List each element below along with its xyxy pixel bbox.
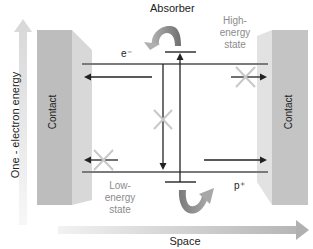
high-energy-state-label: High- energy state [210,15,260,51]
absorber-title: Absorber [150,2,195,14]
hole-label: p⁺ [234,180,245,191]
excitation-arrow [177,53,184,182]
absorption-curved-arrow [144,26,181,50]
high-energy-state-line-3: state [210,39,260,51]
energy-diagram: Absorber e⁻ p⁺ High- energy state Low- e… [0,0,313,249]
emission-curved-arrow [179,188,214,214]
low-energy-state-label: Low- energy state [95,180,145,216]
electron-to-left-contact-arrow [84,74,152,81]
right-contact-label: Contact [283,82,294,142]
left-contact [37,30,92,205]
low-energy-state-line-2: energy [95,192,145,204]
high-energy-state-line-2: energy [210,27,260,39]
low-energy-state-line-3: state [95,204,145,216]
low-energy-state-line-1: Low- [95,180,145,192]
electron-label: e⁻ [121,48,132,59]
left-contact-label: Contact [47,82,58,142]
high-energy-state-line-1: High- [210,15,260,27]
x-axis-label: Space [160,235,210,247]
y-axis-label: One - electron energy [9,45,21,205]
